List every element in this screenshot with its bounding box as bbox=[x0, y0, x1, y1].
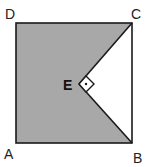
geometry-diagram: D C A B E bbox=[0, 0, 149, 167]
label-a: A bbox=[4, 146, 14, 162]
label-d: D bbox=[5, 6, 15, 22]
right-angle-dot bbox=[85, 83, 87, 85]
label-c: C bbox=[131, 6, 141, 22]
shaded-region bbox=[16, 23, 132, 143]
label-e: E bbox=[63, 77, 72, 93]
label-b: B bbox=[133, 150, 142, 166]
